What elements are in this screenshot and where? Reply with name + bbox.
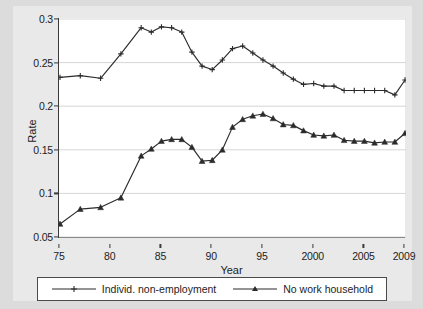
x-tick-mark bbox=[403, 244, 404, 248]
legend-entry-2[interactable]: No work household bbox=[232, 283, 373, 295]
plus-marker bbox=[301, 82, 306, 87]
y-axis-title: Rate bbox=[26, 119, 38, 142]
x-tick-mark bbox=[160, 244, 161, 248]
y-tick-mark bbox=[54, 62, 58, 63]
x-tick-mark bbox=[312, 244, 313, 248]
chart-legend: Individ. non-employmentNo work household bbox=[37, 277, 387, 301]
legend-triangle-icon bbox=[232, 283, 278, 295]
x-tick-label: 95 bbox=[256, 250, 267, 262]
plus-marker bbox=[352, 88, 357, 93]
plus-marker bbox=[291, 76, 296, 81]
series-line bbox=[60, 27, 405, 95]
plus-marker bbox=[59, 75, 63, 80]
x-tick-label: 2000 bbox=[301, 250, 324, 262]
plus-marker bbox=[321, 83, 326, 88]
plot-area bbox=[58, 18, 405, 238]
plot-wrapper: 0.050.10.150.20.250.3 758085909520002005… bbox=[58, 18, 405, 244]
x-tick-mark bbox=[211, 244, 212, 248]
figure-canvas: 0.050.10.150.20.250.3 758085909520002005… bbox=[13, 6, 412, 301]
plus-marker bbox=[311, 81, 316, 86]
legend-label: No work household bbox=[283, 283, 373, 295]
y-tick-mark bbox=[54, 18, 58, 19]
triangle-marker bbox=[118, 195, 124, 200]
plus-marker bbox=[372, 88, 377, 93]
plus-marker bbox=[149, 29, 154, 34]
triangle-marker bbox=[138, 153, 144, 158]
series-group bbox=[59, 24, 406, 226]
chart-svg bbox=[59, 18, 406, 238]
triangle-marker bbox=[301, 128, 307, 133]
x-tick-mark bbox=[363, 244, 364, 248]
legend-plus-icon bbox=[51, 283, 97, 295]
y-tick-label: 0.05 bbox=[33, 231, 53, 243]
y-tick-mark bbox=[54, 149, 58, 150]
x-tick-label: 90 bbox=[206, 250, 217, 262]
plus-marker bbox=[341, 88, 346, 93]
legend-label: Individ. non-employment bbox=[102, 283, 216, 295]
y-tick-label: 0.25 bbox=[33, 57, 53, 69]
x-tick-mark bbox=[261, 244, 262, 248]
triangle-marker bbox=[402, 130, 406, 135]
y-tick-label: 0.3 bbox=[39, 13, 53, 25]
y-tick-mark bbox=[54, 106, 58, 107]
plus-marker bbox=[331, 83, 336, 88]
x-tick-mark bbox=[58, 244, 59, 248]
x-tick-label: 85 bbox=[155, 250, 166, 262]
y-tick-label: 0.15 bbox=[33, 144, 53, 156]
plus-marker bbox=[382, 88, 387, 93]
x-tick-label: 2005 bbox=[352, 250, 375, 262]
plus-marker bbox=[159, 24, 164, 29]
triangle-marker bbox=[260, 111, 266, 116]
series-1 bbox=[59, 24, 406, 97]
y-tick-label: 0.2 bbox=[39, 100, 53, 112]
x-tick-label: 75 bbox=[53, 250, 64, 262]
plus-marker bbox=[179, 29, 184, 34]
x-tick-label: 2009 bbox=[393, 250, 416, 262]
x-tick-label: 80 bbox=[104, 250, 115, 262]
plus-marker bbox=[78, 73, 83, 78]
y-tick-mark bbox=[54, 193, 58, 194]
y-tick-label: 0.1 bbox=[39, 187, 53, 199]
x-tick-mark bbox=[109, 244, 110, 248]
plus-marker bbox=[362, 88, 367, 93]
plus-marker bbox=[169, 25, 174, 30]
y-tick-mark bbox=[54, 236, 58, 237]
legend-entry-1[interactable]: Individ. non-employment bbox=[51, 283, 216, 295]
series-2 bbox=[59, 111, 406, 226]
series-line bbox=[60, 114, 405, 224]
x-axis-title: Year bbox=[220, 264, 242, 276]
